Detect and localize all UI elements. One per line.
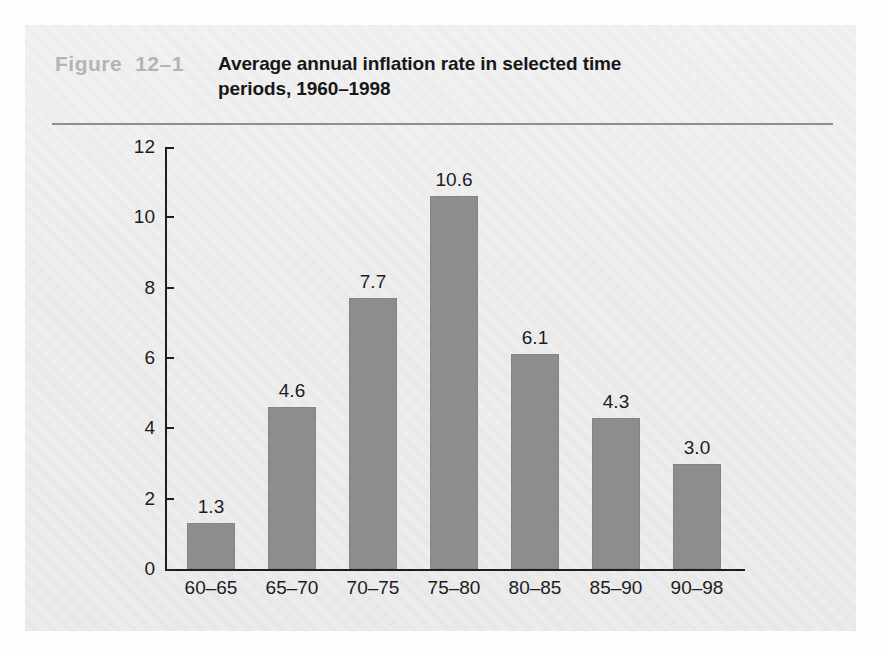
bar-value-label: 6.1 — [485, 327, 585, 349]
y-axis-tick — [167, 357, 174, 359]
x-axis-tick-label: 90–98 — [647, 577, 747, 599]
bar — [430, 196, 478, 569]
bar-value-label: 10.6 — [404, 169, 504, 191]
y-axis-tick — [167, 287, 174, 289]
y-axis-tick — [167, 216, 174, 218]
bar — [349, 298, 397, 569]
bar — [268, 407, 316, 569]
figure-root: Figure12–1 Average annual inflation rate… — [0, 0, 881, 656]
y-axis-tick-value: 2 — [55, 488, 155, 510]
y-axis-tick-value: 8 — [55, 277, 155, 299]
bar-chart-plot: 0246810121.360–654.665–707.770–7510.675–… — [25, 25, 856, 631]
bar — [592, 418, 640, 569]
bar — [187, 523, 235, 569]
y-axis-tick-value: 12 — [55, 136, 155, 158]
figure-card: Figure12–1 Average annual inflation rate… — [25, 25, 856, 631]
bar-value-label: 4.6 — [242, 380, 342, 402]
bar — [511, 354, 559, 569]
y-axis-tick — [167, 427, 174, 429]
y-axis-tick-value: 6 — [55, 347, 155, 369]
y-axis-tick — [167, 147, 174, 149]
bar-value-label: 1.3 — [161, 496, 261, 518]
y-axis-tick-value: 0 — [55, 558, 155, 580]
y-axis-tick-value: 10 — [55, 206, 155, 228]
bar-value-label: 4.3 — [566, 391, 666, 413]
y-axis-tick-value: 4 — [55, 417, 155, 439]
bar-value-label: 7.7 — [323, 271, 423, 293]
bar-value-label: 3.0 — [647, 437, 747, 459]
bar — [673, 464, 721, 570]
x-axis-line — [165, 569, 745, 571]
